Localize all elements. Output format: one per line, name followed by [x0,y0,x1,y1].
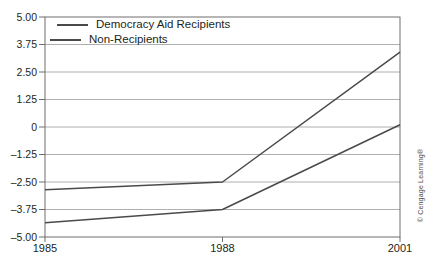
legend-line-swatch-non-recipients [50,39,81,41]
legend-item-democracy-aid-recipients: Democracy Aid Recipients [57,17,230,32]
y-tick-label: 0 [31,121,37,133]
y-tick-label: –1.25 [11,148,37,160]
legend-line-swatch-democracy [57,24,88,26]
y-tick-label: –2.50 [11,176,37,188]
y-tick-label: 1.25 [17,93,38,105]
y-tick-label: 5.00 [17,11,38,23]
legend-label-democracy: Democracy Aid Recipients [96,18,230,31]
series-line-democracy-aid-recipients [45,52,400,190]
chart-legend: Democracy Aid Recipients Non-Recipients [57,17,230,47]
chart-figure: 5.003.752.501.250–1.25–2.50–3.75–5.00198… [0,0,437,261]
copyright-text: © Cengage Learning® [417,146,428,226]
legend-item-non-recipients: Non-Recipients [50,32,230,47]
legend-label-non-recipients: Non-Recipients [89,33,168,46]
y-tick-label: 3.75 [17,38,38,50]
y-tick-label: –3.75 [11,203,37,215]
series-line-non-recipients [45,125,400,223]
y-tick-label: 2.50 [17,66,38,78]
x-tick-label: 1988 [210,242,234,254]
x-tick-label: 1985 [33,242,57,254]
x-tick-label: 2001 [388,242,412,254]
